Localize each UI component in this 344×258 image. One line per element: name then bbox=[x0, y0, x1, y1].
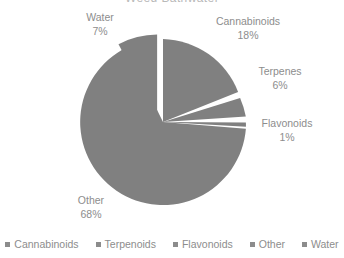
slice-label-terpenes-name: Terpenes bbox=[258, 65, 301, 77]
pie-chart: Weed Bathwater Water 7% Cannabinoids 18%… bbox=[0, 0, 344, 258]
slice-label-other: Other 68% bbox=[52, 193, 130, 221]
legend-swatch-icon bbox=[96, 242, 101, 247]
slice-label-other-name: Other bbox=[78, 194, 104, 206]
pie-plot-area: Water 7% Cannabinoids 18% Terpenes 6% Fl… bbox=[0, 0, 344, 215]
legend-label-terpenoids: Terpenoids bbox=[105, 238, 156, 250]
slice-label-water: Water 7% bbox=[62, 10, 138, 38]
slice-label-flavonoids-name: Flavonoids bbox=[262, 117, 313, 129]
legend-swatch-icon bbox=[5, 242, 10, 247]
slice-label-water-value: 7% bbox=[62, 24, 138, 38]
legend-item-cannabinoids[interactable]: Cannabinoids bbox=[5, 238, 78, 250]
slice-label-water-name: Water bbox=[86, 11, 114, 23]
legend-swatch-icon bbox=[302, 242, 307, 247]
slice-label-flavonoids: Flavonoids 1% bbox=[246, 116, 328, 144]
legend-item-terpenoids[interactable]: Terpenoids bbox=[96, 238, 156, 250]
chart-legend: Cannabinoids Terpenoids Flavonoids Other… bbox=[0, 234, 344, 254]
slice-label-terpenes-value: 6% bbox=[243, 78, 317, 92]
slice-label-cannabinoids: Cannabinoids 18% bbox=[202, 14, 294, 42]
legend-swatch-icon bbox=[173, 242, 178, 247]
legend-swatch-icon bbox=[250, 242, 255, 247]
legend-label-flavonoids: Flavonoids bbox=[182, 238, 233, 250]
slice-label-cannabinoids-name: Cannabinoids bbox=[216, 15, 280, 27]
legend-label-other: Other bbox=[259, 238, 285, 250]
legend-label-water: Water bbox=[311, 238, 339, 250]
slice-label-terpenes: Terpenes 6% bbox=[243, 64, 317, 92]
slice-label-flavonoids-value: 1% bbox=[246, 130, 328, 144]
legend-item-water[interactable]: Water bbox=[302, 238, 339, 250]
legend-label-cannabinoids: Cannabinoids bbox=[14, 238, 78, 250]
slice-label-cannabinoids-value: 18% bbox=[202, 28, 294, 42]
legend-item-other[interactable]: Other bbox=[250, 238, 285, 250]
slice-label-other-value: 68% bbox=[52, 207, 130, 221]
legend-item-flavonoids[interactable]: Flavonoids bbox=[173, 238, 233, 250]
